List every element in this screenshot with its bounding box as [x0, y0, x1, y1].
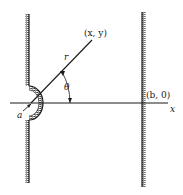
angle-arrow-top-icon	[60, 71, 65, 76]
radius-label: r	[64, 52, 69, 62]
diagram-canvas: (x, y) r θ a (b, 0) x	[0, 0, 183, 195]
angle-label: θ	[64, 82, 70, 92]
point-label: (x, y)	[84, 28, 107, 38]
angle-arrow-bottom-icon	[68, 98, 72, 103]
right-wall	[142, 12, 146, 187]
wall-point-label: (b, 0)	[146, 90, 170, 100]
x-axis-label: x	[170, 104, 175, 114]
circle-radius-label: a	[17, 110, 22, 120]
left-wall-lower	[26, 120, 30, 183]
left-wall-upper	[26, 14, 30, 86]
